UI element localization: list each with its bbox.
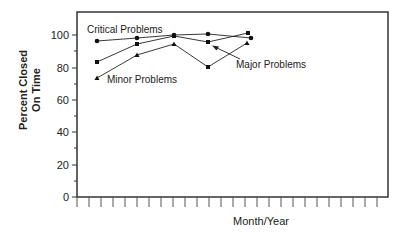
plot-frame: [77, 12, 388, 197]
y-axis-title-line2: On Time: [30, 68, 42, 112]
y-tick-60: 60: [57, 94, 69, 106]
y-tick-80: 80: [57, 62, 69, 74]
x-axis-ticks: [77, 197, 377, 207]
chart: 0 20 40 60 80 100 Percent Closed On Time: [0, 0, 408, 236]
y-axis-title: Percent Closed On Time: [17, 50, 42, 130]
y-tick-20: 20: [57, 159, 69, 171]
label-major-problems: Major Problems: [236, 59, 306, 70]
label-minor-problems: Minor Problems: [107, 74, 177, 85]
y-tick-0: 0: [63, 191, 69, 203]
label-critical-problems: Critical Problems: [87, 24, 163, 35]
y-tick-40: 40: [57, 126, 69, 138]
y-axis-title-line1: Percent Closed: [17, 50, 29, 130]
y-tick-100: 100: [51, 29, 69, 41]
x-axis-title: Month/Year: [233, 215, 289, 227]
major-arrow: [212, 46, 240, 60]
